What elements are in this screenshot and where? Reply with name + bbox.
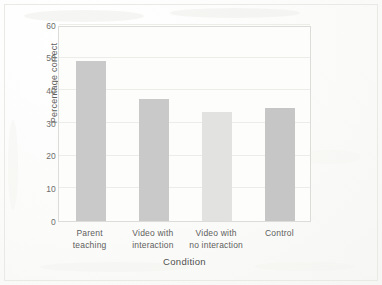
y-axis-tick-label: 30 [16, 120, 56, 129]
bar [76, 61, 106, 221]
chart-page: Percentage correct 0102030405060 Parentt… [0, 0, 382, 285]
bar [202, 112, 232, 221]
bar-chart: Percentage correct 0102030405060 Parentt… [0, 0, 382, 285]
gridline [59, 57, 310, 58]
y-axis-tick-label: 20 [16, 152, 56, 161]
x-axis-tick-label: Control [248, 228, 311, 240]
x-axis-tick-label: Video withno interaction [185, 228, 248, 251]
gridline [59, 24, 310, 25]
x-axis-tick-label: Parentteaching [58, 228, 121, 251]
y-axis-tick-label: 50 [16, 54, 56, 63]
plot-area [58, 26, 311, 222]
x-axis-title: Condition [58, 256, 311, 267]
bar [139, 99, 169, 222]
bar [265, 108, 295, 221]
y-axis-tick-label: 40 [16, 87, 56, 96]
y-axis-tick-label: 0 [16, 218, 56, 227]
x-axis-tick-label: Video withinteraction [121, 228, 184, 251]
y-axis-tick-label: 60 [16, 22, 56, 31]
y-axis-tick-label: 10 [16, 185, 56, 194]
